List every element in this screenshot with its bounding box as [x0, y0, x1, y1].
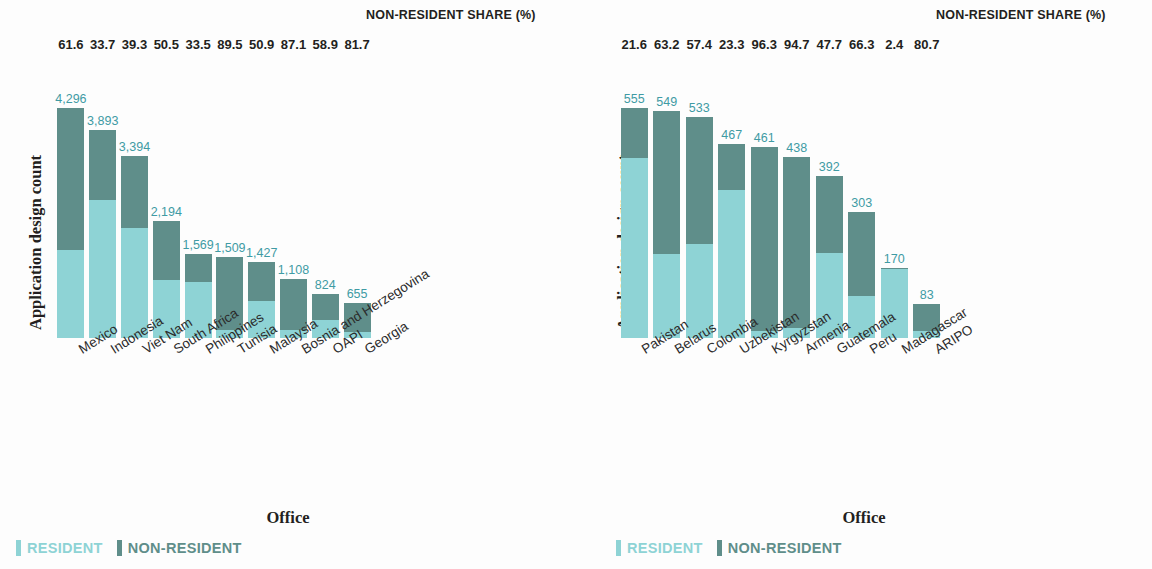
- nonresident-share-value: 47.7: [813, 36, 846, 54]
- nonresident-share-value: 81.7: [341, 36, 373, 54]
- resident-legend[interactable]: RESIDENT: [616, 540, 703, 556]
- nonresident-share-value: 58.9: [309, 36, 341, 54]
- bar-segment-nonresident: [751, 147, 778, 331]
- stacked-bar[interactable]: [783, 157, 810, 339]
- nonresident-share-value: 50.5: [150, 36, 182, 54]
- legend-swatch-icon: [16, 540, 21, 556]
- bar-segment-nonresident: [718, 144, 745, 189]
- legend: RESIDENTNON-RESIDENT: [16, 540, 242, 556]
- right-chart-panel: NON-RESIDENT SHARE (%) 21.663.257.423.39…: [576, 0, 1152, 569]
- bar-segment-nonresident: [57, 108, 84, 250]
- bar-segment-nonresident: [248, 262, 275, 301]
- nonresident-share-value: 87.1: [278, 36, 310, 54]
- bar-value-label: 555: [624, 92, 645, 106]
- bar-value-label: 4,296: [55, 92, 86, 106]
- bar-group: 3,394: [121, 108, 148, 338]
- bar-group: 461: [751, 108, 778, 338]
- bar-value-label: 533: [689, 101, 710, 115]
- bar-value-label: 392: [819, 160, 840, 174]
- bar-value-label: 3,394: [119, 140, 150, 154]
- stacked-bar[interactable]: [121, 156, 148, 338]
- stacked-bar[interactable]: [751, 147, 778, 338]
- nonresident-share-value: 2.4: [878, 36, 911, 54]
- bar-value-label: 1,427: [246, 246, 277, 260]
- nonresident-legend[interactable]: NON-RESIDENT: [717, 540, 842, 556]
- bar-group: 1,108: [280, 108, 307, 338]
- bar-group: 467: [718, 108, 745, 338]
- nonresident-share-value: 61.6: [55, 36, 87, 54]
- bar-group: 1,509: [216, 108, 243, 338]
- bar-value-label: 438: [786, 141, 807, 155]
- bar-segment-resident: [718, 190, 745, 338]
- legend-swatch-icon: [117, 540, 122, 556]
- legend-swatch-icon: [717, 540, 722, 556]
- bar-group: 549: [653, 108, 680, 338]
- legend-swatch-icon: [616, 540, 621, 556]
- plot-area: 4,2963,8933,3942,1941,5691,5091,4271,108…: [55, 108, 373, 338]
- x-axis-title: Office: [576, 508, 1152, 528]
- stacked-bar[interactable]: [621, 108, 648, 338]
- stacked-bar[interactable]: [89, 130, 116, 338]
- bar-value-label: 655: [347, 287, 368, 301]
- resident-legend[interactable]: RESIDENT: [16, 540, 103, 556]
- stacked-bar[interactable]: [57, 108, 84, 338]
- bar-value-label: 549: [656, 95, 677, 109]
- x-axis-category-labels: PakistanBelarusColombiaUzbekistanKyrgyzs…: [618, 344, 943, 484]
- bar-segment-resident: [89, 200, 116, 338]
- nonresident-share-value: 63.2: [651, 36, 684, 54]
- bar-group: 555: [621, 108, 648, 338]
- nonresident-share-value: 80.7: [911, 36, 944, 54]
- nonresident-share-value: 89.5: [214, 36, 246, 54]
- bar-segment-nonresident: [686, 117, 713, 244]
- bar-group: 533: [686, 108, 713, 338]
- nonresident-share-value: 33.5: [182, 36, 214, 54]
- nonresident-share-value: 96.3: [748, 36, 781, 54]
- bar-value-label: 1,509: [214, 241, 245, 255]
- bar-value-label: 303: [851, 196, 872, 210]
- bar-group: 170: [881, 108, 908, 338]
- x-axis-title: Office: [0, 508, 576, 528]
- legend: RESIDENTNON-RESIDENT: [616, 540, 842, 556]
- bar-value-label: 461: [754, 131, 775, 145]
- nonresident-share-value: 21.6: [618, 36, 651, 54]
- bar-value-label: 467: [721, 128, 742, 142]
- stacked-bar[interactable]: [718, 144, 745, 338]
- left-chart-panel: NON-RESIDENT SHARE (%) 61.633.739.350.53…: [0, 0, 576, 569]
- bar-group: 1,569: [185, 108, 212, 338]
- legend-label: RESIDENT: [27, 540, 103, 556]
- plot-area: 55554953346746143839230317083: [618, 108, 943, 338]
- bar-value-label: 1,108: [278, 263, 309, 277]
- nonresident-share-values-row: 21.663.257.423.396.394.747.766.32.480.7: [618, 36, 943, 54]
- bar-segment-nonresident: [783, 157, 810, 329]
- bar-segment-nonresident: [312, 294, 339, 320]
- bar-group: 2,194: [153, 108, 180, 338]
- bar-group: 83: [913, 108, 940, 338]
- legend-label: RESIDENT: [627, 540, 703, 556]
- bar-group: 824: [312, 108, 339, 338]
- bar-value-label: 170: [884, 252, 905, 266]
- bar-segment-nonresident: [89, 130, 116, 200]
- bar-segment-nonresident: [848, 212, 875, 295]
- nonresident-share-value: 23.3: [716, 36, 749, 54]
- legend-label: NON-RESIDENT: [128, 540, 242, 556]
- bar-segment-nonresident: [816, 176, 843, 253]
- bar-group: 4,296: [57, 108, 84, 338]
- legend-label: NON-RESIDENT: [728, 540, 842, 556]
- bar-segment-nonresident: [653, 111, 680, 255]
- nonresident-share-value: 33.7: [87, 36, 119, 54]
- nonresident-legend[interactable]: NON-RESIDENT: [117, 540, 242, 556]
- nonresident-share-value: 39.3: [119, 36, 151, 54]
- nonresident-share-header: NON-RESIDENT SHARE (%): [936, 8, 1106, 22]
- nonresident-share-header: NON-RESIDENT SHARE (%): [366, 8, 536, 22]
- bar-group: 303: [848, 108, 875, 338]
- bar-group: 3,893: [89, 108, 116, 338]
- stacked-bar[interactable]: [653, 111, 680, 339]
- figure-root: NON-RESIDENT SHARE (%) 61.633.739.350.53…: [0, 0, 1152, 569]
- bar-value-label: 1,569: [182, 238, 213, 252]
- bar-value-label: 824: [315, 278, 336, 292]
- nonresident-share-values-row: 61.633.739.350.533.589.550.987.158.981.7: [55, 36, 373, 54]
- bar-value-label: 3,893: [87, 114, 118, 128]
- nonresident-share-value: 66.3: [846, 36, 879, 54]
- bar-group: 392: [816, 108, 843, 338]
- stacked-bar[interactable]: [686, 117, 713, 338]
